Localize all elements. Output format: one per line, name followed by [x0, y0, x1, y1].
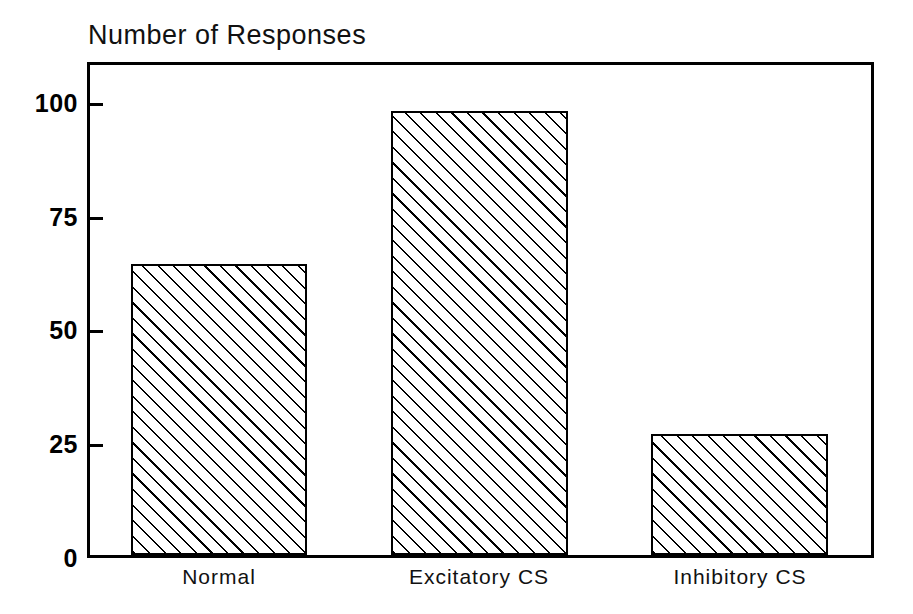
chart-page: Number of Responses 100 75 50 25 0 Norma… [0, 0, 913, 614]
bar-normal[interactable] [131, 264, 307, 555]
y-axis-tick-50 [90, 330, 103, 333]
y-axis-tick-25 [90, 444, 103, 447]
y-axis-tick-label-50: 50 [8, 318, 78, 343]
bar-inhibitory-cs[interactable] [651, 434, 828, 555]
y-axis-labels: 100 75 50 25 0 [0, 0, 78, 614]
chart-title: Number of Responses [88, 22, 366, 49]
bar-excitatory-cs[interactable] [391, 111, 568, 555]
y-axis-tick-100 [90, 103, 103, 106]
plot-area [90, 65, 871, 555]
y-axis-tick-label-0: 0 [8, 546, 78, 571]
plot-frame [87, 62, 874, 558]
y-axis-tick-label-75: 75 [8, 205, 78, 230]
x-axis-label-excitatory-cs: Excitatory CS [379, 566, 579, 587]
x-axis-label-inhibitory-cs: Inhibitory CS [640, 566, 840, 587]
y-axis-tick-label-25: 25 [8, 432, 78, 457]
x-axis-label-normal: Normal [129, 566, 309, 587]
y-axis-tick-label-100: 100 [8, 91, 78, 116]
y-axis-tick-75 [90, 217, 103, 220]
